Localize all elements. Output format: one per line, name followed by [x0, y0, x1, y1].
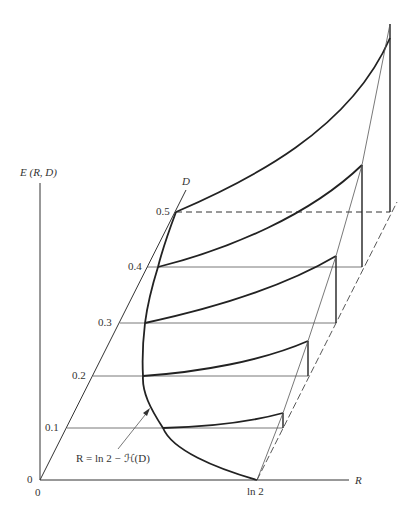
d-axis-label: D [181, 175, 190, 187]
dashed-diagonal [257, 202, 397, 480]
d-axis [40, 190, 186, 480]
annotation-arrow-line [118, 410, 149, 449]
rate-distortion-exponent-diagram: E (R, D) R D 0 0 ln 2 0.1 0.2 0.3 0.4 0.… [0, 0, 414, 519]
origin-label-y: 0 [27, 473, 33, 485]
exponent-curve-0.5 [176, 38, 390, 212]
ln2-label: ln 2 [247, 485, 264, 497]
exponent-curve-0.2 [143, 341, 308, 376]
envelope-line [257, 24, 390, 480]
r-axis-label: R [354, 474, 362, 486]
d-tick-0.5: 0.5 [156, 205, 170, 217]
curve-annotation: R = ln 2 − ℋ(D) [76, 452, 150, 465]
d-tick-0.2: 0.2 [72, 369, 86, 381]
annotation-arrow-head [143, 408, 150, 416]
d-tick-0.4: 0.4 [128, 260, 142, 272]
origin-label-x: 0 [35, 486, 41, 498]
e-axis-label: E (R, D) [19, 166, 57, 179]
diagram-canvas: E (R, D) R D 0 0 ln 2 0.1 0.2 0.3 0.4 0.… [0, 0, 414, 519]
base-curve [143, 212, 257, 480]
d-tick-0.1: 0.1 [45, 421, 59, 433]
exponent-curve-0.1 [163, 413, 283, 428]
d-tick-0.3: 0.3 [98, 316, 112, 328]
exponent-curve-0.3 [145, 256, 336, 323]
